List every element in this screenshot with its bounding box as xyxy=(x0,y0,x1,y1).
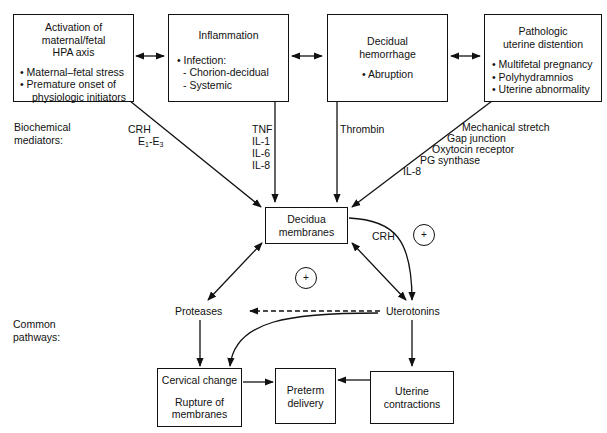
bullet-item: physiologic initiators xyxy=(32,91,133,104)
label-biochemical-mediators: Biochemical mediators: xyxy=(14,121,71,146)
mediators-inflammation: TNF IL-1 IL-6 IL-8 xyxy=(252,123,272,171)
bullet-item: • Uterine abnormality xyxy=(492,83,601,96)
node-proteases: Proteases xyxy=(175,305,222,318)
box-hpa-activation: Activation of maternal/fetal HPA axis • … xyxy=(13,14,134,102)
bullet-item: • Maternal–fetal stress xyxy=(20,66,133,79)
box-title-line: HPA axis xyxy=(14,46,133,59)
mediator-il8-distention: IL-8 xyxy=(403,165,421,178)
bullet-item: - Systemic xyxy=(183,79,288,92)
arrow-decidua-uterotonins xyxy=(352,243,406,300)
bullet-item: • Premature onset of xyxy=(20,78,133,91)
positive-feedback-icon: + xyxy=(295,267,317,289)
mediator-e: E xyxy=(138,135,145,147)
bullet-item: • Infection: xyxy=(177,54,288,67)
box-preterm-delivery: Preterm delivery xyxy=(275,368,336,424)
box-title-line: contractions xyxy=(371,398,453,411)
box-title-line: Decidual xyxy=(328,35,447,48)
label-common-pathways: Common pathways: xyxy=(13,318,60,343)
box-title-line: uterine distention xyxy=(485,38,601,51)
box-title-line: Uterine xyxy=(371,385,453,398)
box-cervical-change: Cervical change Rupture of membranes xyxy=(157,368,242,427)
label-line: mediators: xyxy=(14,134,71,147)
box-title-line: Inflammation xyxy=(169,29,288,42)
box-decidual-hemorrhage: Decidual hemorrhage • Abruption xyxy=(327,14,448,102)
arrow-uterotonins-to-cervical xyxy=(230,313,378,366)
mediator-pg-synthase: PG synthase xyxy=(420,154,480,167)
box-uterine-distention: Pathologic uterine distention • Multifet… xyxy=(484,14,602,102)
mediator-il1: IL-1 xyxy=(252,135,272,147)
arrow-hpa-to-decidua xyxy=(130,101,261,207)
box-uterine-contractions: Uterine contractions xyxy=(370,371,454,424)
label-line: pathways: xyxy=(13,331,60,344)
box-title-line: Preterm xyxy=(276,384,335,397)
mediator-thrombin: Thrombin xyxy=(340,123,384,136)
box-title-line: Cervical change xyxy=(158,374,241,387)
bullet-item: • Multifetal pregnancy xyxy=(492,58,601,71)
bullet-item: - Chorion-decidual xyxy=(183,66,288,79)
node-uterotonins: Uterotonins xyxy=(386,305,440,318)
mediator-tnf: TNF xyxy=(252,123,272,135)
bullet-item: • Abruption xyxy=(328,68,447,81)
bullet-item: • Polyhydramnios xyxy=(492,71,601,84)
positive-feedback-icon: + xyxy=(413,224,435,246)
box-title-line: Pathologic xyxy=(485,25,601,38)
mediator-estrogens: E1-E3 xyxy=(138,135,163,152)
box-title-line: delivery xyxy=(276,397,335,410)
label-line: Common xyxy=(13,318,60,331)
box-title-line: Rupture of xyxy=(158,396,241,409)
box-title-line: maternal/fetal xyxy=(14,34,133,47)
mediator-e-sep: -E xyxy=(149,135,160,147)
box-title-line: hemorrhage xyxy=(328,48,447,61)
mediator-e-sub3: 3 xyxy=(159,141,163,148)
arrow-decidua-proteases xyxy=(208,243,262,300)
box-title-line: membranes xyxy=(266,226,347,239)
label-line: Biochemical xyxy=(14,121,71,134)
mediator-il6: IL-6 xyxy=(252,147,272,159)
box-title-line: membranes xyxy=(158,408,241,421)
mediator-crh: CRH xyxy=(128,123,151,136)
box-decidua-membranes: Decidua membranes xyxy=(265,207,348,244)
label-crh-curve: CRH xyxy=(372,230,395,243)
box-title-line: Activation of xyxy=(14,21,133,34)
box-title-line: Decidua xyxy=(266,213,347,226)
mediator-il8: IL-8 xyxy=(252,159,272,171)
box-inflammation: Inflammation • Infection: - Chorion-deci… xyxy=(168,14,289,102)
